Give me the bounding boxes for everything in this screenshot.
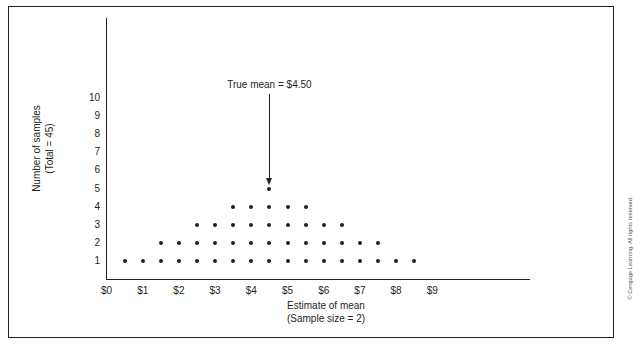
y-tick-label: 4 xyxy=(78,202,100,212)
data-point xyxy=(177,241,181,245)
y-tick-label: 7 xyxy=(78,147,100,157)
x-tick-label: $9 xyxy=(419,285,445,297)
y-tick-label: 6 xyxy=(78,165,100,175)
true-mean-annotation-label: True mean = $4.50 xyxy=(159,79,379,91)
data-point xyxy=(286,241,290,245)
x-tick-label: $7 xyxy=(347,285,373,297)
x-tick-label: $0 xyxy=(94,285,120,297)
x-axis-title: Estimate of mean (Sample size = 2) xyxy=(236,300,416,325)
y-axis-title-line2: (Total = 45) xyxy=(43,79,56,219)
data-point xyxy=(304,205,308,209)
data-point xyxy=(123,259,127,263)
copyright-notice: © Cengage Learning. All rights reserved. xyxy=(627,178,633,318)
x-axis-title-line1: Estimate of mean xyxy=(236,300,416,313)
data-point xyxy=(159,241,163,245)
x-tick-label: $2 xyxy=(166,285,192,297)
y-axis-line xyxy=(106,18,107,280)
data-point xyxy=(286,223,290,227)
y-tick-label: 2 xyxy=(78,238,100,248)
x-tick-label: $8 xyxy=(383,285,409,297)
down-arrow-icon xyxy=(269,94,270,179)
y-tick-label: 8 xyxy=(78,129,100,139)
x-axis-tick-labels: $0$1$2$3$4$5$6$7$8$9 xyxy=(0,285,640,301)
data-point xyxy=(340,223,344,227)
data-point xyxy=(340,241,344,245)
data-point xyxy=(304,259,308,263)
y-axis-title: Number of samples (Total = 45) xyxy=(31,79,56,219)
data-point xyxy=(304,223,308,227)
y-tick-label: 3 xyxy=(78,220,100,230)
y-tick-label: 5 xyxy=(78,184,100,194)
x-tick-label: $6 xyxy=(311,285,337,297)
data-point xyxy=(286,205,290,209)
data-point xyxy=(286,259,290,263)
data-point xyxy=(267,187,271,191)
x-tick-label: $5 xyxy=(275,285,301,297)
x-tick-label: $1 xyxy=(130,285,156,297)
x-tick-label: $3 xyxy=(202,285,228,297)
figure-container: 12345678910 $0$1$2$3$4$5$6$7$8$9 Number … xyxy=(0,0,640,350)
y-tick-label: 10 xyxy=(78,93,100,103)
data-point xyxy=(322,241,326,245)
data-point xyxy=(213,223,217,227)
y-tick-label: 9 xyxy=(78,111,100,121)
x-tick-label: $4 xyxy=(238,285,264,297)
data-point xyxy=(322,223,326,227)
y-axis-title-line1: Number of samples xyxy=(31,79,44,219)
data-point xyxy=(358,241,362,245)
y-tick-label: 1 xyxy=(78,256,100,266)
data-point xyxy=(195,223,199,227)
data-point xyxy=(304,241,308,245)
data-point xyxy=(231,205,235,209)
x-axis-line xyxy=(106,279,530,280)
x-axis-title-line2: (Sample size = 2) xyxy=(236,313,416,326)
